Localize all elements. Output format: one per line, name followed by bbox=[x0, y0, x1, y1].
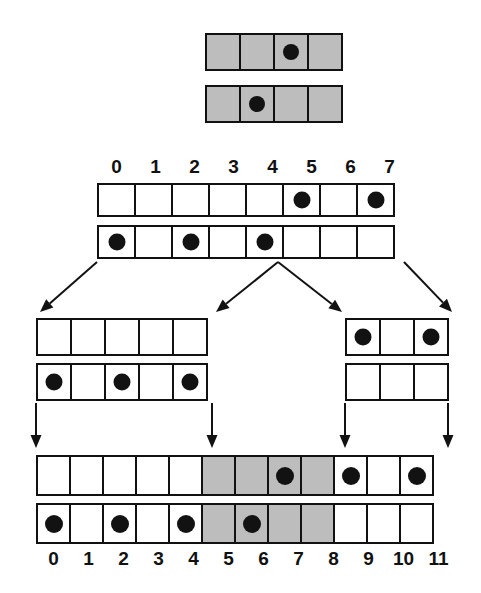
pointer-dot-icon bbox=[342, 467, 360, 485]
cell bbox=[70, 363, 106, 401]
pointer-dot-icon bbox=[276, 467, 294, 485]
pointer-dot-icon bbox=[108, 234, 125, 251]
cell bbox=[234, 455, 269, 496]
cell bbox=[97, 183, 136, 217]
index-label: 0 bbox=[97, 156, 136, 178]
index-label: 5 bbox=[211, 548, 246, 570]
cell bbox=[168, 503, 203, 544]
cell bbox=[104, 318, 140, 356]
cell bbox=[307, 85, 343, 123]
pointer-dot-icon bbox=[283, 44, 299, 60]
cell bbox=[366, 455, 401, 496]
cell bbox=[379, 363, 415, 401]
index-label: 7 bbox=[281, 548, 316, 570]
index-label: 6 bbox=[246, 548, 281, 570]
parent-row-2 bbox=[97, 225, 393, 259]
bottom-row-1 bbox=[36, 455, 432, 496]
index-label: 1 bbox=[136, 156, 175, 178]
cell bbox=[102, 503, 137, 544]
index-label: 4 bbox=[176, 548, 211, 570]
middle-right-row-1 bbox=[345, 318, 447, 356]
cell bbox=[300, 455, 335, 496]
cell bbox=[319, 183, 358, 217]
top-row-1 bbox=[205, 33, 341, 71]
pointer-dot-icon bbox=[293, 192, 310, 209]
index-label: 4 bbox=[253, 156, 292, 178]
cell bbox=[102, 455, 137, 496]
cell bbox=[356, 183, 395, 217]
cell bbox=[399, 503, 434, 544]
cell bbox=[307, 33, 343, 71]
cell bbox=[319, 225, 358, 259]
arrow-head-icon bbox=[439, 299, 452, 312]
arrow-head-icon bbox=[328, 300, 342, 312]
cell bbox=[171, 183, 210, 217]
pointer-dot-icon bbox=[408, 467, 426, 485]
arrow-shaft bbox=[226, 262, 278, 304]
pointer-dot-icon bbox=[367, 192, 384, 209]
pointer-dot-icon bbox=[45, 515, 63, 533]
cell bbox=[69, 455, 104, 496]
top-row-2 bbox=[205, 85, 341, 123]
parent-row-1 bbox=[97, 183, 393, 217]
pointer-dot-icon bbox=[355, 329, 372, 346]
cell bbox=[366, 503, 401, 544]
cell bbox=[399, 455, 434, 496]
cell bbox=[134, 225, 173, 259]
cell bbox=[168, 455, 203, 496]
cell bbox=[267, 455, 302, 496]
cell bbox=[413, 318, 449, 356]
index-label: 3 bbox=[141, 548, 176, 570]
cell bbox=[208, 225, 247, 259]
cell bbox=[245, 183, 284, 217]
pointer-dot-icon bbox=[182, 234, 199, 251]
cell bbox=[104, 363, 140, 401]
middle-right-row-2 bbox=[345, 363, 447, 401]
index-label: 2 bbox=[106, 548, 141, 570]
index-label: 3 bbox=[214, 156, 253, 178]
arrow-head-icon bbox=[340, 435, 351, 448]
cell bbox=[36, 363, 72, 401]
cell bbox=[208, 183, 247, 217]
bottom-row-2 bbox=[36, 503, 432, 544]
index-label: 2 bbox=[175, 156, 214, 178]
cell bbox=[135, 455, 170, 496]
cell bbox=[36, 318, 72, 356]
cell bbox=[205, 85, 241, 123]
arrow-shaft bbox=[278, 262, 332, 304]
cell bbox=[300, 503, 335, 544]
arrow-shaft bbox=[50, 262, 97, 303]
cell bbox=[172, 363, 208, 401]
cell bbox=[239, 33, 275, 71]
cell bbox=[267, 503, 302, 544]
diagram-canvas: 01234567 01234567891011 bbox=[0, 0, 481, 593]
index-label: 6 bbox=[331, 156, 370, 178]
cell bbox=[273, 85, 309, 123]
index-label: 8 bbox=[316, 548, 351, 570]
pointer-dot-icon bbox=[177, 515, 195, 533]
cell bbox=[201, 455, 236, 496]
arrow-head-icon bbox=[40, 299, 53, 312]
cell bbox=[69, 503, 104, 544]
pointer-dot-icon bbox=[249, 96, 265, 112]
cell bbox=[171, 225, 210, 259]
parent-group-labels: 01234567 bbox=[97, 156, 409, 178]
middle-left-row-2 bbox=[36, 363, 206, 401]
pointer-dot-icon bbox=[111, 515, 129, 533]
cell bbox=[201, 503, 236, 544]
pointer-dot-icon bbox=[423, 329, 440, 346]
cell bbox=[172, 318, 208, 356]
index-label: 1 bbox=[71, 548, 106, 570]
index-label: 10 bbox=[386, 548, 421, 570]
cell bbox=[273, 33, 309, 71]
cell bbox=[138, 363, 174, 401]
cell bbox=[36, 455, 71, 496]
cell bbox=[345, 363, 381, 401]
arrow-head-icon bbox=[216, 300, 230, 312]
arrow-shaft bbox=[404, 262, 443, 303]
pointer-dot-icon bbox=[182, 374, 199, 391]
index-label: 7 bbox=[370, 156, 409, 178]
pointer-dot-icon bbox=[114, 374, 131, 391]
index-label: 0 bbox=[36, 548, 71, 570]
middle-left-row-1 bbox=[36, 318, 206, 356]
